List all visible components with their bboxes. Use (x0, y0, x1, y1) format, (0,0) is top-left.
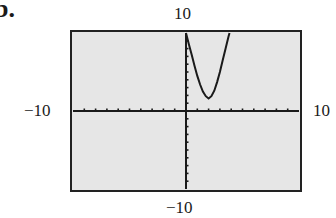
plot-area (70, 30, 302, 192)
axes (73, 33, 299, 189)
xmax-label: 10 (313, 102, 330, 119)
xmin-label: −10 (24, 102, 51, 119)
part-label: b. (0, 0, 15, 24)
ymin-label: −10 (166, 199, 193, 216)
ymax-label: 10 (174, 5, 191, 22)
curve-series (186, 33, 230, 99)
